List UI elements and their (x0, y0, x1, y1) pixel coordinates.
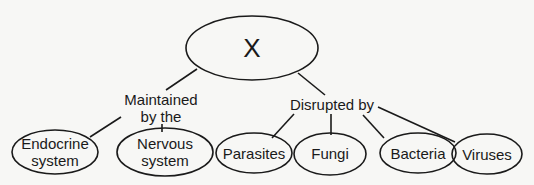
node-label-line: system (137, 152, 193, 169)
node-endocrine-system: Endocrine system (21, 135, 89, 169)
edge-disrupted-to-bacteria (363, 115, 384, 138)
node-bacteria: Bacteria (390, 145, 445, 162)
node-label-line: system (21, 152, 89, 169)
node-viruses: Viruses (462, 146, 512, 163)
concept-map: X Maintained by the Endocrine system Ner… (0, 0, 534, 185)
node-fungi: Fungi (311, 145, 349, 162)
root-node-label: X (243, 34, 260, 62)
node-parasites: Parasites (223, 145, 286, 162)
edge-disrupted-to-viruses (378, 107, 455, 142)
relation-maintained-by: Maintained by the (124, 91, 197, 125)
edge-root-to-maintained (166, 69, 197, 90)
node-nervous-system: Nervous system (137, 135, 193, 169)
edge-disrupted-to-parasites (272, 114, 294, 138)
relation-line-2: by the (124, 108, 197, 125)
relation-disrupted-by: Disrupted by (290, 96, 374, 113)
node-label-line: Endocrine (21, 135, 89, 152)
node-label-line: Nervous (137, 135, 193, 152)
edge-maintained-to-endocrine (90, 117, 121, 137)
edge-root-to-disrupted (298, 73, 325, 95)
relation-line-1: Maintained (124, 91, 197, 108)
